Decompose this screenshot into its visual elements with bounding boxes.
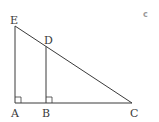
right-angle-marker-b — [46, 97, 52, 103]
geometry-diagram: E D A B C c — [0, 0, 159, 122]
label-point-b: B — [42, 107, 50, 120]
label-point-d: D — [44, 34, 53, 47]
label-point-e: E — [10, 14, 18, 27]
label-point-c: C — [130, 107, 138, 120]
label-point-a: A — [10, 107, 20, 120]
right-angle-marker-a — [15, 97, 21, 103]
segment-ec — [15, 26, 132, 103]
corner-label: c — [143, 10, 148, 19]
